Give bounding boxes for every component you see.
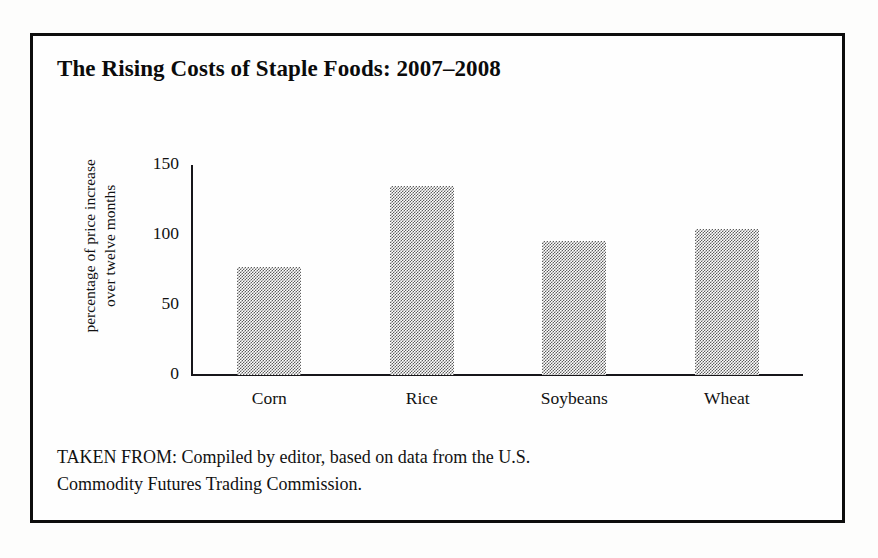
x-tick-label-corn: Corn	[199, 388, 339, 409]
bar-chart: percentage of price increase over twelve…	[33, 36, 848, 436]
y-tick-label-100: 100	[133, 223, 179, 244]
y-tick-label-0: 0	[133, 363, 179, 384]
y-tick-label-50: 50	[133, 293, 179, 314]
bar-rice	[390, 186, 454, 375]
x-tick-label-rice: Rice	[352, 388, 492, 409]
x-tick-label-soybeans: Soybeans	[504, 388, 644, 409]
y-axis-title-line-1: percentage of price increase	[80, 126, 100, 366]
figure-frame: The Rising Costs of Staple Foods: 2007–2…	[30, 33, 845, 523]
source-note: TAKEN FROM: Compiled by editor, based on…	[57, 444, 797, 499]
plot-area	[193, 165, 803, 375]
y-axis-title: percentage of price increase over twelve…	[80, 126, 120, 366]
bar-wheat	[695, 229, 759, 375]
y-tick-label-150: 150	[133, 153, 179, 174]
bar-corn	[237, 267, 301, 375]
source-note-line-2: Commodity Futures Trading Commission.	[57, 471, 797, 498]
y-axis-title-line-2: over twelve months	[100, 126, 120, 366]
source-note-line-1: TAKEN FROM: Compiled by editor, based on…	[57, 444, 797, 471]
x-tick-label-wheat: Wheat	[657, 388, 797, 409]
bar-soybeans	[542, 241, 606, 375]
figure-page: The Rising Costs of Staple Foods: 2007–2…	[0, 0, 878, 558]
